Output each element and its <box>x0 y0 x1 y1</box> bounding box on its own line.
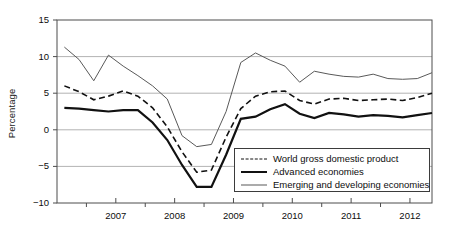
x-axis-major-ticks <box>86 203 380 207</box>
legend-item-emerging-economies: Emerging and developing economies <box>241 178 429 191</box>
legend-swatch-thin-solid-line <box>241 179 267 191</box>
legend-label-emerging-economies: Emerging and developing economies <box>273 178 429 191</box>
y-tick-label: 10 <box>23 51 49 62</box>
x-tick-label: 2011 <box>331 210 371 221</box>
y-tick-label: 15 <box>23 14 49 25</box>
x-tick-label: 2009 <box>213 210 253 221</box>
x-tick-label: 2010 <box>272 210 312 221</box>
y-tick-label: 5 <box>23 87 49 98</box>
legend-label-world-gdp: World gross domestic product <box>273 152 399 165</box>
x-tick-label: 2012 <box>390 210 430 221</box>
y-axis-ticks <box>53 20 57 203</box>
x-tick-label: 2008 <box>155 210 195 221</box>
y-tick-label: −10 <box>23 197 49 208</box>
legend-swatch-thick-solid-line <box>241 166 267 178</box>
y-tick-label: 0 <box>23 124 49 135</box>
y-axis-title: Percentage <box>6 79 17 149</box>
legend-label-advanced-economies: Advanced economies <box>273 165 364 178</box>
legend-item-world-gdp: World gross domestic product <box>241 152 429 165</box>
line-chart <box>0 0 450 235</box>
x-tick-label: 2007 <box>96 210 136 221</box>
legend-swatch-dashed-line <box>241 153 267 165</box>
chart-legend: World gross domestic product Advanced ec… <box>234 148 430 192</box>
y-tick-label: −5 <box>23 160 49 171</box>
legend-item-advanced-economies: Advanced economies <box>241 165 429 178</box>
